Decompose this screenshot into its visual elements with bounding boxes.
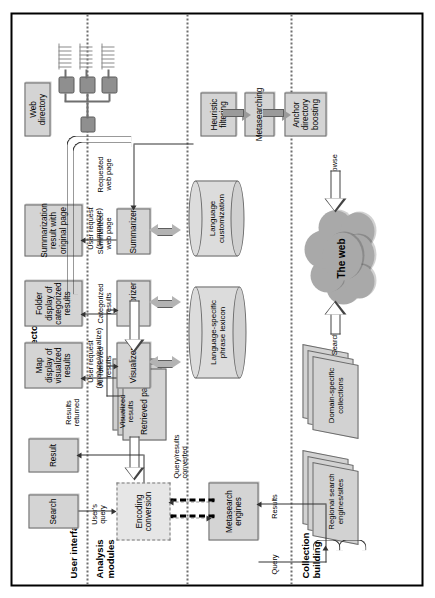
- arrowhead-requested-web-page: [130, 205, 136, 210]
- node-search[interactable]: Search: [28, 494, 78, 528]
- tree-link-1: [64, 93, 66, 101]
- arrow-head-left: [149, 356, 158, 368]
- arrow-head-fill: [125, 467, 141, 478]
- arrow-categorizer-lexicon: [149, 296, 181, 309]
- line-retrieved-branch: [106, 395, 120, 396]
- tree-child-node-2: [79, 76, 95, 93]
- tree-link-6: [107, 69, 109, 78]
- diagram-board: User interface Analysis modules Web dire…: [10, 12, 423, 586]
- tree-child-node-3: [101, 76, 117, 93]
- node-language-customization[interactable]: Language customization: [188, 180, 244, 256]
- the-web-label: The web: [304, 206, 376, 310]
- language-customization-label: Language customization: [188, 180, 244, 256]
- arrow-anchor-to-metasearching: [263, 108, 291, 121]
- arrowhead-summarizer-to-summarization: [80, 237, 85, 243]
- arrow-head-left: [149, 296, 158, 308]
- arrow-shaft: [157, 299, 173, 307]
- arrow-shaft: [157, 227, 173, 235]
- collections-brace-2: [338, 539, 366, 550]
- rotated-canvas: A framework for web searching and browsi…: [0, 0, 435, 598]
- line-encoding-to-result-v: [78, 454, 143, 455]
- line-requested-web-page: [133, 144, 134, 208]
- line-visualizer-to-map: [82, 377, 116, 378]
- edge-label-users-query: User's query: [90, 494, 107, 534]
- arrow-shaft: [263, 109, 284, 117]
- line-requested-web-page-v: [133, 143, 193, 144]
- arrow-visualizer-lexicon: [149, 356, 181, 369]
- arrow-head-right: [172, 356, 181, 368]
- edge-label-query: Query: [270, 548, 278, 580]
- arrow-shaft: [223, 109, 244, 117]
- tree-link-2: [86, 93, 88, 101]
- arrowhead-search-to-encoding: [111, 508, 116, 514]
- tree-link-4: [64, 69, 66, 78]
- arrowhead-encoding-to-metasearch: [206, 515, 211, 521]
- hollow-arrow-directory-to-retrieved: [124, 300, 144, 352]
- band-label-analysis-modules: Analysis modules: [94, 539, 116, 578]
- domain-specific-label: Domain-specific collections: [316, 360, 356, 430]
- tree-leaf-comb-3: [101, 43, 114, 69]
- line-summarizer-to-summarization: [82, 239, 116, 240]
- tree-leaf-comb-1: [58, 43, 71, 69]
- arrow-head-right: [172, 224, 181, 236]
- node-web-directory[interactable]: Web directory: [24, 82, 50, 136]
- arrowhead-metasearch-to-encoding: [168, 499, 173, 505]
- arrowhead-to-categorizer: [113, 307, 118, 313]
- arrow-stem: [330, 312, 340, 334]
- node-metasearch-engines[interactable]: Metasearch engines: [208, 482, 258, 540]
- arrowhead-encoding-to-result: [76, 452, 81, 458]
- tree-child-node-1: [58, 76, 74, 93]
- arrow-stem: [129, 436, 139, 468]
- arrow-shaft: [157, 359, 173, 367]
- node-the-web[interactable]: The web: [304, 206, 376, 310]
- arrowhead-results: [256, 501, 261, 507]
- line-encoding-to-result: [143, 454, 144, 482]
- edge-label-results: Results: [270, 490, 278, 522]
- phrase-lexicon-label: Language-specific phrase lexicon: [188, 286, 246, 378]
- hollow-arrow-retrieved-to-result: [124, 436, 144, 480]
- line-categorizer-to-folder: [82, 313, 116, 314]
- web-directory-tree-icon: [58, 36, 116, 132]
- arrowhead-categorizer-to-folder: [80, 311, 85, 317]
- arrow-summarizer-language-customization: [149, 224, 181, 237]
- regional-search-label: Regional search engines/sites: [316, 466, 356, 536]
- arrow-stem: [330, 170, 340, 198]
- diagram-frame: A framework for web searching and browsi…: [0, 0, 435, 598]
- arrow-metasearching-to-heuristic: [223, 108, 251, 121]
- line-metasearch-query: [258, 561, 326, 562]
- tree-link-3: [108, 93, 110, 101]
- node-map-display[interactable]: Map display of visualized results: [24, 342, 82, 388]
- line-collections-to-results: [325, 504, 326, 548]
- arrow-head-left: [149, 224, 158, 236]
- arrow-head-fill: [125, 339, 141, 350]
- node-regional-search[interactable]: Regional search engines/sites: [302, 444, 360, 540]
- route-retrieved-to-directory-inner: [72, 141, 131, 294]
- arrowhead-visualizer-to-map: [80, 375, 85, 381]
- node-phrase-lexicon[interactable]: Language-specific phrase lexicon: [188, 286, 246, 378]
- tree-leaf-comb-2: [79, 43, 92, 69]
- line-metasearch-encoding-up: [170, 498, 214, 502]
- tree-link-5: [85, 69, 87, 78]
- node-encoding-conversion[interactable]: Encoding conversion: [116, 482, 170, 540]
- edge-label-query-results-converted: Query/results converted: [172, 420, 189, 478]
- edge-label-results-returned: Results returned: [64, 390, 81, 434]
- line-retrieved-to-modules: [106, 310, 107, 396]
- arrow-head-right: [172, 296, 181, 308]
- line-search-to-encoding: [78, 510, 112, 511]
- tree-link-root: [86, 102, 88, 118]
- line-results-from-collections: [258, 503, 326, 504]
- arrowhead-to-visualizer: [113, 363, 118, 369]
- node-result[interactable]: Result: [28, 438, 78, 472]
- arrow-stem: [129, 300, 139, 340]
